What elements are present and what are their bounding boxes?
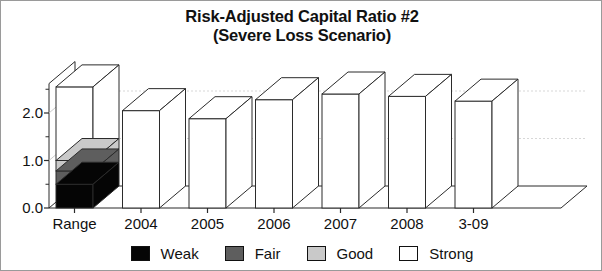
bar-3-09-strong [455,79,518,208]
chart-canvas [1,57,602,217]
bar-2008-strong [389,74,452,208]
legend-swatch-fair [225,246,244,261]
plot-area: 0.01.02.0 [1,57,602,217]
x-tick-label-2007: 2007 [306,215,376,232]
legend-swatch-strong [399,246,418,261]
legend-label-fair: Fair [255,245,281,262]
x-tick-label-range: Range [40,215,110,232]
y-tick-label: 2.0 [3,104,43,121]
chart-frame: Risk-Adjusted Capital Ratio #2 (Severe L… [0,0,602,271]
chart-title-block: Risk-Adjusted Capital Ratio #2 (Severe L… [1,7,602,45]
bar-2007-strong [322,72,385,208]
x-tick-label-3-09: 3-09 [439,215,509,232]
x-axis-labels: Range200420052006200720083-09 [1,215,602,239]
bar-2004-strong [123,89,186,208]
chart-legend: WeakFairGoodStrong [1,241,602,265]
legend-label-good: Good [337,245,374,262]
legend-item-weak[interactable]: Weak [131,245,199,262]
bar-2005-strong [189,97,252,208]
legend-label-weak: Weak [161,245,199,262]
x-tick-label-2006: 2006 [239,215,309,232]
x-tick-label-2005: 2005 [173,215,243,232]
legend-label-strong: Strong [429,245,473,262]
y-tick-label: 0.0 [3,199,43,216]
chart-title: Risk-Adjusted Capital Ratio #2 [1,7,602,26]
legend-swatch-weak [131,246,150,261]
x-tick-label-2008: 2008 [372,215,442,232]
legend-item-strong[interactable]: Strong [399,245,473,262]
y-tick-label: 1.0 [3,152,43,169]
legend-item-fair[interactable]: Fair [225,245,281,262]
chart-subtitle: (Severe Loss Scenario) [1,26,602,45]
legend-item-good[interactable]: Good [307,245,374,262]
bar-2006-strong [256,78,319,208]
legend-swatch-good [307,246,326,261]
x-tick-label-2004: 2004 [106,215,176,232]
